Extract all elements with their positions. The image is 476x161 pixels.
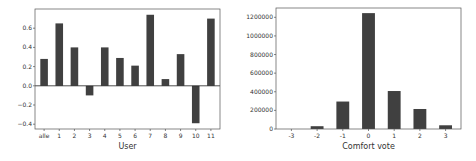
bar-7 (146, 15, 154, 86)
comfort-vote-bar-chart: -3-2-10123020000040000060000080000010000… (246, 8, 461, 151)
y-tick-label: 0 (269, 125, 273, 132)
y-tick-label: 0.0 (22, 82, 32, 89)
bar-1 (55, 23, 63, 85)
y-tick-label: 0.2 (22, 63, 32, 70)
bar-5 (116, 58, 124, 86)
x-tick-label: 9 (179, 132, 183, 139)
bar--2 (311, 126, 324, 129)
y-tick-label: 0.6 (22, 24, 32, 31)
x-tick-label: 3 (444, 132, 448, 139)
bar-11 (207, 19, 215, 86)
bar-8 (162, 79, 170, 86)
x-tick-label: alle (39, 132, 50, 139)
y-tick-label: 200000 (250, 106, 273, 113)
bar-alle (40, 59, 48, 86)
bar-6 (131, 66, 139, 86)
x-tick-label: 5 (118, 132, 122, 139)
bar-9 (177, 54, 185, 86)
y-tick-label: 1000000 (246, 32, 273, 39)
figure: alle1234567891011−0.4−0.20.00.20.40.6Use… (0, 0, 476, 161)
bar--1 (336, 102, 349, 129)
bar-2 (71, 47, 79, 85)
x-tick-label: 0 (367, 132, 371, 139)
x-tick-label: 7 (148, 132, 152, 139)
x-tick-label: -2 (314, 132, 320, 139)
x-tick-label: 11 (207, 132, 215, 139)
x-tick-label: 3 (88, 132, 92, 139)
x-tick-label: 4 (103, 132, 107, 139)
y-tick-label: −0.4 (17, 120, 32, 127)
x-tick-label: 8 (163, 132, 167, 139)
bar-1 (388, 91, 401, 129)
x-tick-label: 6 (133, 132, 137, 139)
bar-0 (362, 13, 375, 129)
x-tick-label: -3 (288, 132, 294, 139)
bar-2 (413, 109, 426, 129)
x-axis-label: Comfort vote (342, 142, 395, 151)
bar-4 (101, 47, 109, 85)
bar-10 (192, 86, 200, 123)
bar-3 (439, 125, 452, 129)
y-tick-label: 600000 (250, 69, 273, 76)
y-tick-label: −0.2 (17, 101, 32, 108)
x-tick-label: 10 (192, 132, 200, 139)
y-tick-label: 400000 (250, 88, 273, 95)
y-tick-label: 0.4 (22, 43, 32, 50)
x-tick-label: 1 (392, 132, 396, 139)
bar-3 (86, 86, 94, 96)
x-tick-label: -1 (340, 132, 346, 139)
y-tick-label: 1200000 (246, 13, 273, 20)
x-tick-label: 2 (418, 132, 422, 139)
x-tick-label: 2 (73, 132, 77, 139)
y-tick-label: 800000 (250, 51, 273, 58)
x-axis-label: User (118, 142, 137, 151)
user-bar-chart: alle1234567891011−0.4−0.20.00.20.40.6Use… (17, 9, 220, 151)
x-tick-label: 1 (57, 132, 61, 139)
